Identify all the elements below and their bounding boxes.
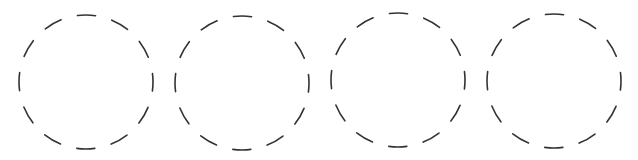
dashed-circle-1 [19,15,153,149]
diagram-canvas [0,0,638,160]
dashed-circle-3 [331,13,465,147]
dashed-circles-diagram [0,0,638,160]
circle-group [19,13,621,150]
dashed-circle-4 [487,14,621,148]
dashed-circle-2 [175,16,309,150]
